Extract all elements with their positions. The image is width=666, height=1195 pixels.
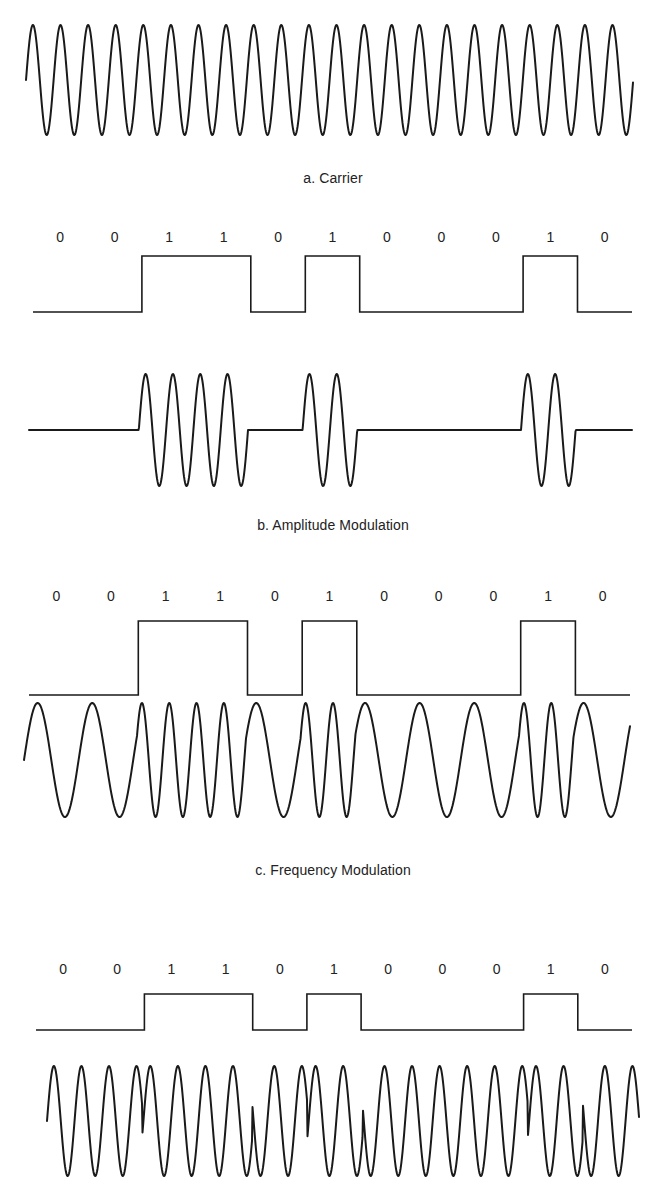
bit-label: 0 (429, 588, 449, 604)
caption-frequency-modulation: c. Frequency Modulation (0, 862, 666, 878)
bit-label: 0 (101, 588, 121, 604)
bit-label: 0 (595, 961, 615, 977)
bit-label: 0 (593, 588, 613, 604)
bit-label: 1 (210, 588, 230, 604)
bit-label: 0 (487, 961, 507, 977)
bit-label: 1 (214, 229, 234, 245)
bit-label: 1 (540, 229, 560, 245)
bit-label: 1 (320, 588, 340, 604)
bit-label: 0 (46, 588, 66, 604)
bit-label: 0 (270, 961, 290, 977)
amplitude-modulated-waveform (29, 374, 632, 486)
bit-label: 0 (431, 229, 451, 245)
frequency-digital-signal (29, 621, 630, 695)
bit-label: 0 (378, 961, 398, 977)
frequency-modulated-waveform (24, 703, 630, 817)
bit-label: 1 (323, 229, 343, 245)
bit-label: 0 (486, 229, 506, 245)
bit-label: 0 (105, 229, 125, 245)
bit-label: 0 (53, 961, 73, 977)
bit-label: 0 (50, 229, 70, 245)
bit-label: 0 (265, 588, 285, 604)
bit-label: 0 (595, 229, 615, 245)
amplitude-modulation-panel (29, 256, 632, 486)
bit-label: 0 (374, 588, 394, 604)
amplitude-digital-signal (33, 256, 632, 312)
bit-label: 1 (538, 588, 558, 604)
bit-label: 1 (541, 961, 561, 977)
carrier-waveform (26, 25, 633, 135)
phase-modulation-panel (36, 994, 639, 1176)
carrier-panel (26, 25, 633, 135)
bit-label: 1 (216, 961, 236, 977)
bit-label: 0 (107, 961, 127, 977)
bit-label: 1 (156, 588, 176, 604)
bit-label: 1 (161, 961, 181, 977)
phase-modulated-waveform (47, 1066, 639, 1176)
caption-amplitude-modulation: b. Amplitude Modulation (0, 517, 666, 533)
bit-label: 0 (377, 229, 397, 245)
bit-label: 1 (324, 961, 344, 977)
bit-label: 0 (432, 961, 452, 977)
bit-label: 1 (159, 229, 179, 245)
caption-carrier: a. Carrier (0, 170, 666, 186)
frequency-modulation-panel (24, 621, 630, 817)
bit-label: 0 (483, 588, 503, 604)
bit-label: 0 (268, 229, 288, 245)
phase-digital-signal (36, 994, 632, 1030)
